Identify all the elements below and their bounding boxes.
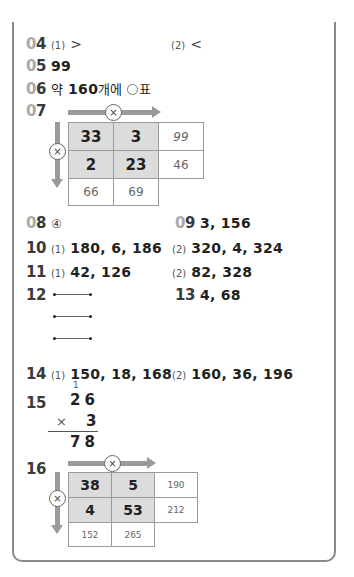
part-label: (2) bbox=[172, 370, 186, 381]
problem-16: 16 bbox=[26, 459, 46, 478]
problem-number: 8 bbox=[36, 214, 46, 232]
problem-09: 09 3, 156 bbox=[175, 213, 251, 232]
part-label: (2) bbox=[171, 40, 185, 51]
problem-11: 11 (1) 42, 126 bbox=[26, 262, 131, 281]
answer: < bbox=[190, 36, 202, 52]
grid-result-cell: 46 bbox=[159, 151, 204, 179]
problem-04-part2: (2) < bbox=[171, 34, 202, 53]
grid-cell: 3 bbox=[114, 123, 159, 151]
answer: 4, 68 bbox=[200, 287, 241, 303]
answer: 3, 156 bbox=[200, 215, 251, 231]
grid-result-cell: 190 bbox=[155, 473, 198, 498]
line-segment bbox=[54, 338, 90, 339]
answer-prefix: 약 bbox=[51, 82, 63, 97]
problem-07: 07 bbox=[26, 101, 46, 120]
answer-number: 160 bbox=[68, 81, 98, 97]
problem-10-part2: (2) 320, 4, 324 bbox=[172, 238, 283, 257]
problem-14-part2: (2) 160, 36, 196 bbox=[172, 364, 293, 383]
problem-number: 6 bbox=[36, 80, 46, 98]
grid-result-cell: 66 bbox=[69, 179, 114, 206]
problem-number-prefix: 0 bbox=[26, 80, 36, 98]
grid-cell: 2 bbox=[69, 151, 114, 179]
problem-08: 08 ④ bbox=[26, 213, 62, 232]
grid-cell: 23 bbox=[114, 151, 159, 179]
problem-05: 05 99 bbox=[26, 56, 71, 75]
answer: 42, 126 bbox=[70, 264, 131, 280]
multiplication-grid: 33 3 99 2 23 46 66 69 bbox=[68, 122, 204, 206]
problem-12: 12 bbox=[26, 285, 46, 304]
grid-empty-cell bbox=[155, 523, 198, 547]
multiply-circle-icon: × bbox=[49, 490, 66, 507]
part-label: (1) bbox=[51, 370, 65, 381]
product: 78 bbox=[70, 433, 99, 451]
carry-digit: 1 bbox=[73, 380, 79, 390]
problem-10: 10 (1) 180, 6, 186 bbox=[26, 238, 162, 257]
answer-suffix: 개에 bbox=[98, 82, 122, 97]
line-segment bbox=[54, 294, 90, 295]
problem-15: 15 bbox=[26, 393, 46, 412]
problem-04: 04 (1) > bbox=[26, 34, 82, 53]
grid-result-cell: 152 bbox=[69, 523, 112, 547]
problem-number-prefix: 0 bbox=[26, 57, 36, 75]
grid-cell: 53 bbox=[112, 498, 155, 523]
answer: 99 bbox=[51, 58, 71, 74]
part-label: (1) bbox=[51, 268, 65, 279]
grid-result-cell: 265 bbox=[112, 523, 155, 547]
answer: ④ bbox=[51, 217, 62, 231]
problem-number: 5 bbox=[36, 57, 46, 75]
point bbox=[53, 293, 56, 296]
problem-number: 13 bbox=[175, 286, 195, 304]
problem-13: 13 4, 68 bbox=[175, 285, 241, 304]
problem-number-prefix: 0 bbox=[26, 214, 36, 232]
multiplier: 3 bbox=[86, 412, 100, 430]
part-label: (2) bbox=[172, 244, 186, 255]
line-segment bbox=[54, 316, 90, 317]
answer: 180, 6, 186 bbox=[70, 240, 162, 256]
multiply-circle-icon: × bbox=[49, 143, 66, 160]
grid-cell: 38 bbox=[69, 473, 112, 498]
grid-result-cell: 212 bbox=[155, 498, 198, 523]
grid-cell: 5 bbox=[112, 473, 155, 498]
problem-number: 9 bbox=[185, 214, 195, 232]
point bbox=[53, 315, 56, 318]
point bbox=[89, 293, 92, 296]
answer-mark: 표 bbox=[139, 82, 151, 97]
problem-number: 15 bbox=[26, 394, 46, 412]
part-label: (1) bbox=[51, 40, 65, 51]
problem-number: 14 bbox=[26, 365, 46, 383]
problem-number-prefix: 0 bbox=[26, 35, 36, 53]
point bbox=[89, 337, 92, 340]
problem-number: 7 bbox=[36, 102, 46, 120]
multiply-circle-icon: × bbox=[104, 455, 121, 472]
problem-number: 4 bbox=[36, 35, 46, 53]
problem-number: 10 bbox=[26, 239, 46, 257]
part-label: (1) bbox=[51, 244, 65, 255]
point bbox=[89, 315, 92, 318]
answer: > bbox=[70, 36, 82, 52]
point bbox=[53, 337, 56, 340]
multiplicand: 26 bbox=[70, 391, 99, 409]
answer: 150, 18, 168 bbox=[70, 366, 172, 382]
problem-11-part2: (2) 82, 328 bbox=[172, 262, 252, 281]
answer: 320, 4, 324 bbox=[191, 240, 283, 256]
multiply-sign: × bbox=[56, 414, 67, 429]
grid-cell: 33 bbox=[69, 123, 114, 151]
problem-number: 11 bbox=[26, 263, 46, 281]
sum-line bbox=[48, 431, 98, 432]
problem-number-prefix: 0 bbox=[175, 214, 185, 232]
multiply-circle-icon: × bbox=[105, 104, 122, 121]
problem-14: 14 (1) 150, 18, 168 bbox=[26, 364, 172, 383]
answer: 160, 36, 196 bbox=[191, 366, 293, 382]
problem-number: 12 bbox=[26, 286, 46, 304]
problem-number: 16 bbox=[26, 460, 46, 478]
answer: 82, 328 bbox=[191, 264, 252, 280]
grid-result-cell: 99 bbox=[159, 123, 204, 151]
part-label: (2) bbox=[172, 268, 186, 279]
problem-number-prefix: 0 bbox=[26, 102, 36, 120]
multiplication-grid: 38 5 190 4 53 212 152 265 bbox=[68, 472, 198, 547]
grid-cell: 4 bbox=[69, 498, 112, 523]
problem-06: 06 약 160개에 표 bbox=[26, 79, 151, 98]
circle-icon bbox=[127, 84, 138, 95]
grid-empty-cell bbox=[159, 179, 204, 206]
grid-result-cell: 69 bbox=[114, 179, 159, 206]
